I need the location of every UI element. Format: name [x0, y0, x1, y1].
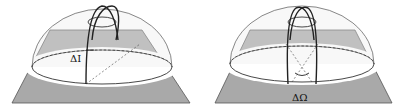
hemisphere: [32, 9, 172, 67]
label-delta-omega: ΔΩ: [292, 92, 308, 103]
hemisphere: [230, 6, 374, 64]
panel-node: ΔΩ: [215, 6, 392, 103]
panel-inclination: ΔI: [12, 6, 190, 103]
label-delta-i: ΔI: [70, 53, 81, 64]
diagram-canvas: ΔI ΔΩ: [0, 0, 404, 112]
